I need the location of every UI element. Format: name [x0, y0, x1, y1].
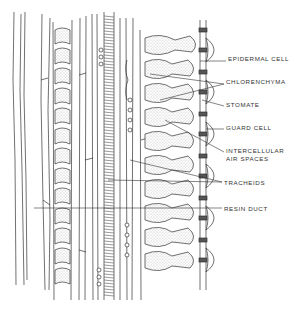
label-tracheids: TRACHEIDS: [224, 179, 265, 186]
label-stomate: STOMATE: [226, 101, 260, 108]
label-resin-duct: RESIN DUCT: [224, 205, 268, 212]
label-guard-cell: GUARD CELL: [226, 124, 272, 131]
epidermis-column: [199, 20, 214, 290]
resin-duct-column: [120, 18, 148, 300]
tracheid-rings: [104, 16, 114, 296]
label-chlorenchyma: CHLORENCHYMA: [226, 78, 286, 85]
label-intercellular: INTERCELLULAR: [226, 147, 284, 154]
label-air-spaces: AIR SPACES: [226, 155, 269, 162]
label-epidermal-cell: EPIDERMAL CELL: [228, 55, 289, 62]
fiber-cells-left: [13, 12, 50, 290]
parenchyma-column-left: [53, 20, 72, 300]
chlorenchyma-cells: [145, 35, 196, 270]
elongated-cells-middle: [79, 14, 103, 300]
